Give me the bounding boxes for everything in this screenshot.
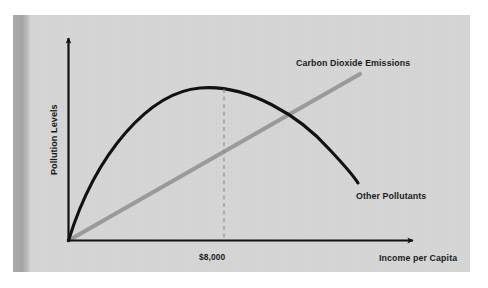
other-pollutants-series-label: Other Pollutants bbox=[356, 190, 426, 201]
carbon-dioxide-trend-line bbox=[69, 74, 361, 241]
x-axis-tick-label: $8,000 bbox=[199, 252, 225, 262]
x-axis-label: Income per Capita bbox=[379, 252, 457, 263]
y-axis-label: Pollution Levels bbox=[48, 104, 59, 175]
kuznets-curve-plot bbox=[0, 0, 488, 288]
figure-canvas: Carbon Dioxide Emissions Other Pollutant… bbox=[0, 0, 488, 288]
carbon-dioxide-series-label: Carbon Dioxide Emissions bbox=[296, 57, 410, 68]
